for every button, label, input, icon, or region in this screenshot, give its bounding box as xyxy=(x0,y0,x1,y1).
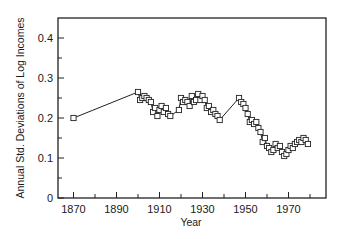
x-tick-label: 1970 xyxy=(276,203,300,215)
data-point-marker xyxy=(245,111,250,116)
data-point-marker xyxy=(254,119,259,124)
data-point-marker xyxy=(168,113,173,118)
y-axis-label: Annual Std. Deviations of Log Incomes xyxy=(14,18,26,199)
y-tick-label: 0.3 xyxy=(38,72,53,84)
data-point-marker xyxy=(258,129,263,134)
x-tick-label: 1930 xyxy=(190,203,214,215)
data-point-marker xyxy=(277,143,282,148)
x-tick-label: 1890 xyxy=(104,203,128,215)
x-tick-label: 1910 xyxy=(147,203,171,215)
x-tick-label: 1950 xyxy=(233,203,257,215)
data-point-marker xyxy=(176,107,181,112)
data-point-marker xyxy=(243,105,248,110)
y-tick-label: 0.4 xyxy=(38,32,53,44)
data-point-marker xyxy=(163,105,168,110)
y-tick-label: 0.1 xyxy=(38,152,53,164)
data-point-marker xyxy=(155,113,160,118)
x-tick-label: 1870 xyxy=(61,203,85,215)
data-point-marker xyxy=(148,99,153,104)
x-axis-label: Year xyxy=(180,216,202,228)
data-point-marker xyxy=(202,97,207,102)
data-point-marker xyxy=(305,141,310,146)
y-axis-ticks: 00.10.20.30.4 xyxy=(38,32,64,204)
data-point-marker xyxy=(262,135,267,140)
y-tick-label: 0.2 xyxy=(38,112,53,124)
y-tick-label: 0 xyxy=(47,192,53,204)
data-point-marker xyxy=(135,89,140,94)
data-point-marker xyxy=(217,117,222,122)
x-axis-ticks: 187018901910193019501970 xyxy=(61,192,310,215)
income-deviation-chart: 00.10.20.30.4 187018901910193019501970 Y… xyxy=(0,0,341,239)
data-point-marker xyxy=(71,115,76,120)
